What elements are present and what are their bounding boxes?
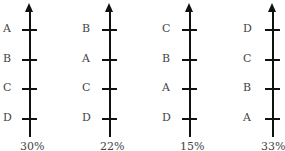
tick	[102, 88, 117, 90]
rank-label: D	[162, 112, 174, 124]
rank-label: B	[162, 53, 174, 65]
rank-label: B	[82, 23, 94, 35]
tick	[102, 59, 117, 61]
tick	[265, 88, 280, 90]
tick	[265, 118, 280, 120]
tick	[22, 88, 37, 90]
tick	[182, 88, 197, 90]
rank-label: D	[82, 112, 94, 124]
rank-label: A	[162, 82, 174, 94]
rank-label: D	[243, 23, 255, 35]
tick	[102, 29, 117, 31]
rank-label: C	[243, 53, 255, 65]
ranking-axis-3: C B A D 15%	[160, 0, 220, 151]
rank-label: B	[3, 53, 15, 65]
tick	[265, 59, 280, 61]
percent-label: 22%	[100, 140, 124, 151]
tick	[182, 29, 197, 31]
ranking-axis-4: D C B A 33%	[243, 0, 285, 151]
rank-label: C	[3, 82, 15, 94]
rank-label: C	[82, 82, 94, 94]
percent-label: 30%	[20, 140, 44, 151]
rank-label: D	[3, 112, 15, 124]
tick	[265, 29, 280, 31]
tick	[182, 118, 197, 120]
rank-label: C	[162, 23, 174, 35]
ranking-axis-2: B A C D 22%	[80, 0, 140, 151]
rank-label: A	[82, 53, 94, 65]
tick	[102, 118, 117, 120]
percent-label: 15%	[180, 140, 204, 151]
rank-label: A	[243, 112, 255, 124]
rank-label: A	[3, 23, 15, 35]
tick	[22, 59, 37, 61]
tick	[22, 118, 37, 120]
ranking-axis-1: A B C D 30%	[0, 0, 60, 151]
rank-label: B	[243, 82, 255, 94]
percent-label: 33%	[261, 140, 285, 151]
tick	[22, 29, 37, 31]
tick	[182, 59, 197, 61]
